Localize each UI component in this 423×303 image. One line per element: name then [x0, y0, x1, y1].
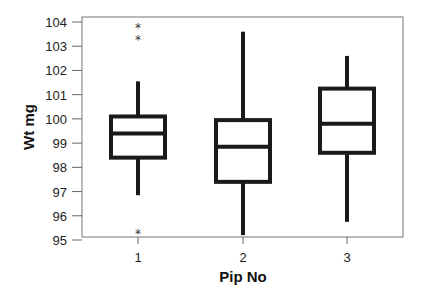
y-tick-label: 102	[45, 63, 67, 78]
y-axis: 9596979899100101102103104	[45, 15, 82, 248]
outlier-marker: *	[135, 33, 141, 47]
y-axis-title: Wt mg	[20, 104, 37, 150]
boxes-group: ***	[111, 21, 374, 241]
y-tick-label: 96	[53, 209, 67, 224]
y-tick-label: 101	[45, 88, 67, 103]
outlier-marker: *	[135, 21, 141, 35]
y-tick-label: 95	[53, 233, 67, 248]
iqr-box	[216, 120, 270, 182]
y-tick-label: 104	[45, 15, 67, 30]
iqr-box	[320, 89, 374, 153]
y-tick-label: 98	[53, 160, 67, 175]
box-1: ***	[111, 21, 165, 241]
outlier-marker: *	[135, 227, 141, 241]
x-tick-label: 1	[134, 250, 141, 265]
y-tick-label: 97	[53, 185, 67, 200]
x-axis: 123	[134, 237, 350, 265]
y-tick-label: 103	[45, 39, 67, 54]
box-2	[216, 32, 270, 235]
box-3	[320, 56, 374, 222]
x-axis-title: Pip No	[219, 268, 267, 285]
x-tick-label: 3	[343, 250, 350, 265]
x-tick-label: 2	[239, 250, 246, 265]
y-tick-label: 99	[53, 136, 67, 151]
box-plot-chart: 9596979899100101102103104 123 *** Pip No…	[0, 0, 423, 303]
iqr-box	[111, 116, 165, 157]
y-tick-label: 100	[45, 112, 67, 127]
